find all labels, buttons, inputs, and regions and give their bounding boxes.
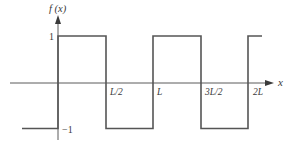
x-tick-label-l-half: L/2 (109, 87, 123, 97)
y-tick-label-minus-1: −1 (62, 124, 73, 135)
y-axis-arrow-icon (55, 15, 61, 24)
x-axis-label: x (277, 76, 283, 88)
x-axis-arrow-icon (265, 80, 274, 86)
x-tick-label-2l: 2L (253, 87, 263, 97)
y-axis-label: f (x) (49, 3, 67, 15)
square-wave-figure: x f (x) 1 −1 L/2 L 3L/2 2L (0, 0, 292, 153)
x-tick-label-l: L (156, 87, 162, 97)
square-wave-curve (22, 36, 262, 129)
x-tick-label-3l-half: 3L/2 (204, 87, 223, 97)
y-tick-label-1: 1 (49, 31, 54, 42)
